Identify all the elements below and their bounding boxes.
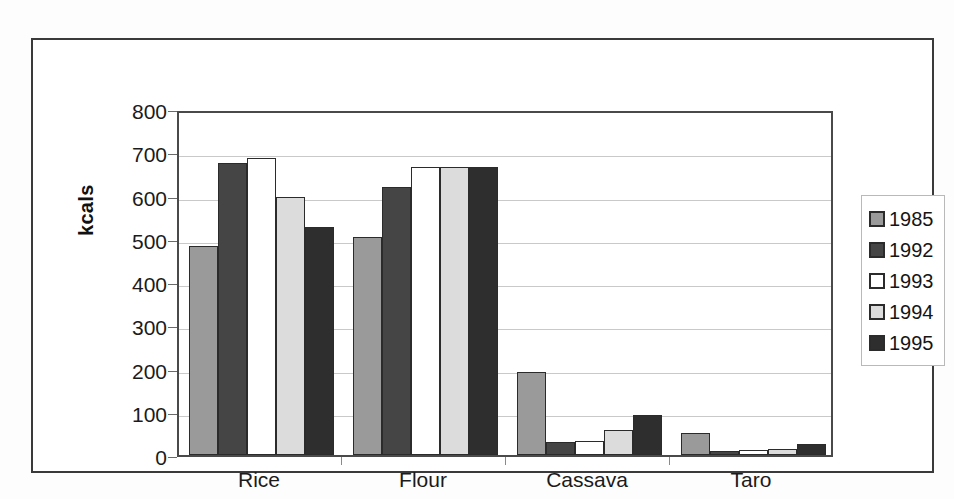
- bar-taro-1992: [710, 451, 739, 455]
- bar-rice-1995: [305, 227, 334, 455]
- y-tick-mark: [168, 371, 177, 372]
- y-tick-mark: [168, 111, 177, 112]
- x-tick-mark: [669, 457, 670, 465]
- legend-item-1992: 1992: [869, 234, 938, 265]
- legend-item-1985: 1985: [869, 203, 938, 234]
- bar-taro-1993: [739, 450, 768, 455]
- bar-taro-1985: [681, 433, 710, 455]
- x-tick-mark: [341, 457, 342, 465]
- bar-cassava-1995: [633, 415, 662, 455]
- y-tick-label: 600: [81, 187, 167, 208]
- bar-rice-1985: [189, 246, 218, 455]
- legend-item-1995: 1995: [869, 327, 938, 358]
- bar-taro-1994: [768, 449, 797, 455]
- legend-swatch-icon: [869, 211, 885, 227]
- y-tick-label: 500: [81, 230, 167, 251]
- bar-taro-1995: [797, 444, 826, 455]
- legend-label: 1985: [889, 209, 934, 229]
- y-tick-label: 100: [81, 403, 167, 424]
- legend-swatch-icon: [869, 304, 885, 320]
- legend-label: 1992: [889, 240, 934, 260]
- x-category-label-flour: Flour: [399, 468, 447, 492]
- bar-flour-1995: [469, 167, 498, 455]
- legend-swatch-icon: [869, 335, 885, 351]
- y-tick-label: 800: [81, 101, 167, 122]
- bar-rice-1992: [218, 163, 247, 455]
- y-tick-mark: [168, 284, 177, 285]
- plot-area: [177, 111, 833, 457]
- bar-rice-1993: [247, 158, 276, 455]
- y-tick-label: 300: [81, 317, 167, 338]
- bar-cassava-1985: [517, 372, 546, 455]
- bar-flour-1993: [411, 167, 440, 455]
- chart-frame: kcals 8007006005004003002001000 RiceFlou…: [31, 38, 934, 473]
- bar-flour-1994: [440, 167, 469, 455]
- bar-flour-1985: [353, 237, 382, 455]
- bar-rice-1994: [276, 197, 305, 455]
- legend-item-1994: 1994: [869, 296, 938, 327]
- legend-swatch-icon: [869, 273, 885, 289]
- y-tick-mark: [168, 154, 177, 155]
- y-tick-mark: [168, 457, 177, 458]
- chart-legend: 19851992199319941995: [861, 195, 945, 366]
- y-tick-mark: [168, 241, 177, 242]
- bar-cassava-1993: [575, 441, 604, 455]
- legend-label: 1993: [889, 271, 934, 291]
- bar-flour-1992: [382, 187, 411, 455]
- y-tick-label: 0: [81, 447, 167, 468]
- scanned-page: kcals 8007006005004003002001000 RiceFlou…: [0, 0, 954, 499]
- y-tick-mark: [168, 327, 177, 328]
- legend-item-1993: 1993: [869, 265, 938, 296]
- x-tick-mark: [505, 457, 506, 465]
- x-category-label-rice: Rice: [238, 468, 280, 492]
- bar-cassava-1994: [604, 430, 633, 455]
- y-tick-mark: [168, 414, 177, 415]
- y-tick-label: 400: [81, 274, 167, 295]
- y-tick-label: 200: [81, 360, 167, 381]
- legend-label: 1995: [889, 333, 934, 353]
- legend-swatch-icon: [869, 242, 885, 258]
- bar-cassava-1992: [546, 442, 575, 455]
- gridline: [179, 156, 831, 157]
- x-category-label-cassava: Cassava: [546, 468, 628, 492]
- x-category-label-taro: Taro: [731, 468, 772, 492]
- y-tick-mark: [168, 198, 177, 199]
- y-tick-label: 700: [81, 144, 167, 165]
- legend-label: 1994: [889, 302, 934, 322]
